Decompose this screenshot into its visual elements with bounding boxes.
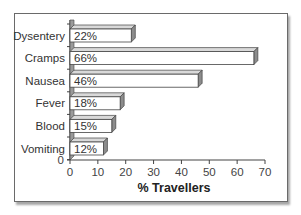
x-tick-label: 30 [147, 166, 160, 178]
category-label: Nausea [25, 75, 65, 87]
category-label: Dysentery [13, 30, 65, 42]
x-tick-label: 50 [203, 166, 216, 178]
x-tick-label: 20 [119, 166, 132, 178]
bar-value-label: 22% [74, 30, 97, 42]
bar-value-label: 46% [74, 75, 97, 87]
bar-dysentery: 22%Dysentery [13, 25, 135, 42]
x-axis-title: % Travellers [138, 181, 211, 195]
x-tick-label: 10 [91, 166, 104, 178]
x-tick-label: 0 [67, 166, 73, 178]
bar-value-label: 15% [74, 120, 97, 132]
bar-cramps: 66%Cramps [25, 48, 258, 65]
bar-nausea: 46%Nausea [25, 70, 202, 87]
bar-top-face [70, 138, 107, 142]
bar-value-label: 18% [74, 97, 97, 109]
bar-front-face [70, 52, 254, 65]
x-tick-label: 60 [231, 166, 244, 178]
bar-blood: 15%Blood [36, 115, 116, 132]
x-tick-label: 40 [175, 166, 188, 178]
bar-top-face [70, 48, 258, 52]
bar-value-label: 66% [74, 52, 97, 64]
bar-chart: 010203040506070022%Dysentery66%Cramps46%… [0, 0, 301, 215]
bar-fever: 18%Fever [36, 93, 125, 110]
bar-top-face [70, 25, 135, 29]
bar-value-label: 12% [74, 143, 97, 155]
bar-top-face [70, 93, 124, 97]
x-tick-label: 70 [259, 166, 272, 178]
category-label: Fever [36, 97, 66, 109]
bar-top-face [70, 115, 116, 119]
bar-top-face [70, 70, 202, 74]
bar-vomiting: 12%Vomiting [21, 138, 108, 155]
y-origin-label: 0 [58, 154, 64, 166]
category-label: Vomiting [21, 143, 65, 155]
category-label: Blood [36, 120, 65, 132]
category-label: Cramps [25, 52, 66, 64]
